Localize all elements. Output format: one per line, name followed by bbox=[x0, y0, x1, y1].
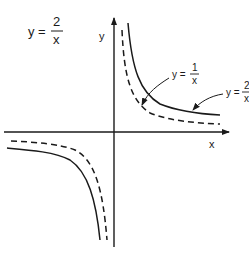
hyperbola-diagram: y x y = 2 x y = 1 x y = 2 x bbox=[0, 0, 249, 256]
label-2-over-x: y = 2 x bbox=[226, 80, 249, 104]
svg-text:x: x bbox=[244, 93, 249, 104]
svg-text:y =: y = bbox=[226, 87, 240, 98]
svg-text:2: 2 bbox=[53, 14, 60, 29]
svg-text:y =: y = bbox=[28, 24, 46, 39]
title-formula: y = 2 x bbox=[28, 14, 63, 47]
arrow-to-2-over-x bbox=[193, 94, 223, 110]
curve-1-over-x-q1 bbox=[122, 30, 220, 124]
x-axis-label: x bbox=[209, 138, 215, 150]
curve-2-over-x-q3 bbox=[7, 148, 100, 240]
svg-text:y =: y = bbox=[172, 69, 186, 80]
svg-text:1: 1 bbox=[192, 62, 198, 73]
svg-text:x: x bbox=[53, 32, 60, 47]
label-1-over-x: y = 1 x bbox=[172, 62, 199, 86]
svg-text:x: x bbox=[192, 75, 197, 86]
y-axis-label: y bbox=[99, 30, 105, 42]
svg-text:2: 2 bbox=[244, 80, 249, 91]
